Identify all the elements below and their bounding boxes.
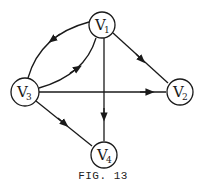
node-v1: V 1	[89, 12, 115, 38]
figure-caption: FIG. 13	[0, 170, 206, 182]
directed-graph: V 1 V 2 V 3 V 4	[0, 0, 206, 189]
edge-v3-v1	[39, 38, 96, 88]
node-v3: V 3	[11, 78, 39, 106]
svg-text:4: 4	[106, 155, 112, 165]
svg-text:1: 1	[104, 25, 110, 35]
node-v2: V 2	[167, 79, 193, 105]
svg-text:3: 3	[26, 92, 32, 102]
node-v4: V 4	[91, 142, 117, 168]
edge-v1-v3	[28, 22, 89, 78]
svg-text:2: 2	[182, 92, 188, 102]
